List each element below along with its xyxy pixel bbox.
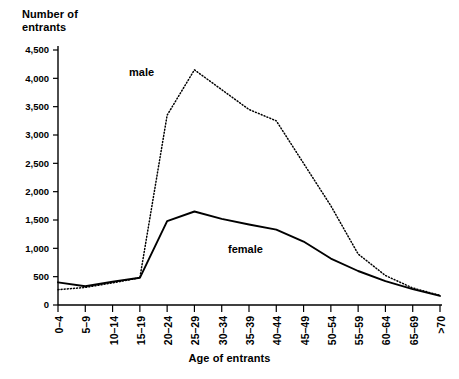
y-tick-label: 4,000	[25, 73, 49, 84]
x-tick-label: 50–54	[326, 316, 338, 345]
figure-caption-partial	[18, 371, 248, 377]
x-tick-label: 45–49	[299, 316, 311, 345]
x-tick-label: 55–59	[353, 316, 365, 345]
y-tick-label: 3,000	[25, 129, 49, 140]
x-tick-label: 10–14	[108, 316, 120, 345]
y-tick-label: 1,000	[25, 243, 49, 254]
x-axis-tick-labels: 0–45–910–1415–1920–2425–2930–3435–3940–4…	[53, 316, 447, 345]
y-tick-label: 2,000	[25, 186, 49, 197]
x-tick-label: 60–64	[380, 316, 392, 345]
plot-area: 05001,0001,5002,0002,5003,0003,5004,0004…	[0, 0, 459, 379]
series-line-male	[58, 70, 440, 296]
x-tick-label: >70	[435, 316, 447, 334]
chart-figure: Number ofentrants male female Age of ent…	[0, 0, 459, 379]
x-tick-label: 20–24	[162, 316, 174, 345]
x-tick-label: 5–9	[80, 316, 92, 334]
x-tick-label: 30–34	[217, 316, 229, 345]
x-axis-ticks	[58, 305, 440, 312]
y-tick-label: 4,500	[25, 44, 49, 55]
x-tick-label: 40–44	[271, 316, 283, 345]
x-tick-label: 15–19	[135, 316, 147, 345]
x-tick-label: 35–39	[244, 316, 256, 345]
y-tick-label: 1,500	[25, 214, 49, 225]
series-line-female	[58, 212, 440, 296]
y-tick-label: 500	[33, 271, 49, 282]
x-tick-label: 25–29	[189, 316, 201, 345]
x-tick-label: 65–69	[408, 316, 420, 345]
y-axis-ticks: 05001,0001,5002,0002,5003,0003,5004,0004…	[25, 44, 58, 310]
y-tick-label: 3,500	[25, 101, 49, 112]
x-tick-label: 0–4	[53, 316, 65, 334]
y-tick-label: 2,500	[25, 158, 49, 169]
y-tick-label: 0	[44, 299, 49, 310]
